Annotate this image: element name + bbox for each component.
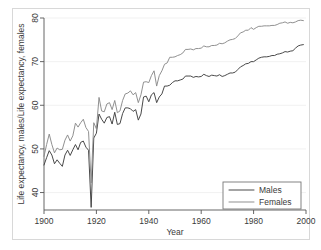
x-tick-label: 1940 [139, 216, 158, 226]
x-tick-label: 1920 [87, 216, 106, 226]
y-tick-label: 40 [30, 188, 40, 198]
chart-figure: 4050607080 190019201940196019802000 Life… [0, 0, 321, 250]
y-tick-label: 50 [30, 144, 40, 154]
x-tick-label: 1980 [244, 216, 263, 226]
y-axis-ticks: 4050607080 [30, 13, 44, 197]
legend-label-females: Females [259, 197, 292, 207]
life-expectancy-line-chart: 4050607080 190019201940196019802000 Life… [0, 0, 321, 250]
y-tick-label: 60 [30, 100, 40, 110]
series-line-females [44, 20, 303, 183]
x-axis-title: Year [166, 227, 183, 237]
y-axis-title: Life expectancy, males/Life expectancy, … [16, 23, 26, 204]
y-tick-label: 80 [30, 13, 40, 23]
x-tick-label: 2000 [297, 216, 316, 226]
x-axis-ticks: 190019201940196019802000 [35, 210, 316, 226]
x-tick-label: 1900 [35, 216, 54, 226]
legend-label-males: Males [259, 185, 282, 195]
gridlines [44, 18, 306, 193]
y-tick-label: 70 [30, 57, 40, 67]
chart-legend: Males Females [223, 182, 301, 209]
x-tick-label: 1960 [192, 216, 211, 226]
